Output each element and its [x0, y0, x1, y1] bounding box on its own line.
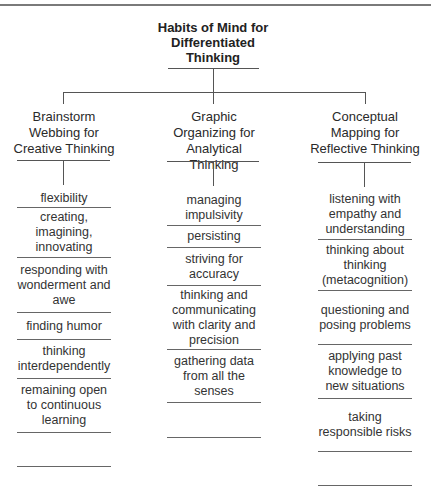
habit-item: listening with empathy and understanding [318, 190, 412, 240]
column-reflective: listening with empathy and understanding… [318, 190, 412, 486]
heading-drop-2 [213, 161, 214, 186]
habit-item: flexibility [17, 190, 111, 208]
habit-text: thinking and communicating with clarity … [167, 288, 261, 348]
habit-text: questioning and posing problems [318, 303, 412, 333]
root-node-title: Habits of Mind for Differentiated Thinki… [143, 20, 283, 65]
column-heading-analytical: Graphic Organizing for Analytical Thinki… [160, 109, 268, 173]
habit-item: managing impulsivity [167, 190, 261, 226]
habit-item: persisting [167, 226, 261, 248]
root-connector [213, 68, 214, 92]
branch-drop-1 [63, 92, 64, 104]
habit-item: thinking interdependently [17, 340, 111, 379]
habit-item: questioning and posing problems [318, 291, 412, 345]
habit-text: thinking interdependently [17, 344, 111, 374]
habit-text: finding humor [26, 319, 102, 334]
column-analytical: managing impulsivity persisting striving… [167, 190, 261, 438]
habit-text: flexibility [40, 191, 87, 206]
habit-item-empty [17, 433, 111, 467]
habit-text: applying past knowledge to new situation… [318, 349, 412, 394]
habit-text: creating, imagining, innovating [17, 210, 111, 255]
habit-text: persisting [187, 229, 241, 244]
habit-text: thinking about thinking (metacognition) [318, 243, 412, 288]
habit-item: creating, imagining, innovating [17, 208, 111, 258]
habit-text: remaining open to continuous learning [17, 383, 111, 428]
habit-text: listening with empathy and understanding [318, 192, 412, 237]
habit-text: gathering data from all the senses [167, 354, 261, 399]
habit-item-empty [318, 452, 412, 486]
branch-connector [63, 92, 365, 93]
branch-drop-2 [213, 92, 214, 104]
habit-item: responding with wonderment and awe [17, 258, 111, 313]
column-creative: flexibility creating, imagining, innovat… [17, 190, 111, 467]
heading-drop-1 [63, 160, 64, 185]
column-heading-creative: Brainstorm Webbing for Creative Thinking [12, 109, 116, 157]
habit-text: taking responsible risks [318, 410, 412, 440]
habit-item: remaining open to continuous learning [17, 379, 111, 433]
habit-text: striving for accuracy [167, 252, 261, 282]
habit-text: responding with wonderment and awe [17, 263, 111, 308]
habit-item: thinking about thinking (metacognition) [318, 240, 412, 291]
habit-text: managing impulsivity [167, 193, 261, 223]
habit-item: finding humor [17, 313, 111, 340]
habit-item: gathering data from all the senses [167, 350, 261, 403]
habit-item: striving for accuracy [167, 248, 261, 286]
column-heading-reflective: Conceptual Mapping for Reflective Thinki… [310, 109, 420, 157]
habit-item: applying past knowledge to new situation… [318, 345, 412, 399]
branch-drop-3 [365, 92, 366, 104]
heading-drop-3 [364, 162, 365, 187]
page-top-rule [0, 4, 431, 6]
habit-item-empty [167, 403, 261, 438]
habit-item: taking responsible risks [318, 399, 412, 452]
habit-item: thinking and communicating with clarity … [167, 286, 261, 350]
